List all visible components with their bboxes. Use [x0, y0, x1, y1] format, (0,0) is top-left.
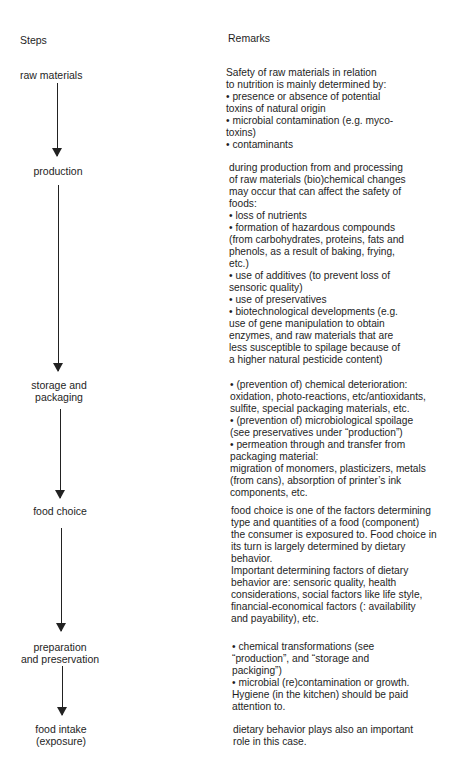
- remark-food-choice: food choice is one of the factors determ…: [231, 505, 468, 625]
- steps-header: Steps: [20, 34, 47, 46]
- step-raw-materials: raw materials: [0, 69, 140, 81]
- arrow-down-icon: [61, 528, 62, 631]
- remark-storage-and-packaging: • (prevention of) chemical deterioration…: [230, 379, 468, 499]
- step-storage-and-packaging: storage and packaging: [0, 379, 119, 403]
- remark-preparation-and-preservation: • chemical transformations (see “product…: [232, 641, 468, 713]
- remark-production: during production from and processing of…: [229, 162, 467, 366]
- step-food-intake: food intake (exposure): [1, 723, 121, 747]
- step-production: production: [0, 165, 118, 177]
- arrow-down-icon: [62, 666, 63, 715]
- remark-raw-materials: Safety of raw materials in relation to n…: [226, 67, 464, 151]
- arrow-down-icon: [57, 83, 58, 156]
- arrow-down-icon: [60, 409, 61, 498]
- arrow-down-icon: [58, 185, 59, 371]
- remark-food-intake: dietary behavior plays also an important…: [233, 724, 468, 748]
- step-food-choice: food choice: [0, 505, 120, 517]
- step-preparation-and-preservation: preparation and preservation: [0, 641, 120, 665]
- remarks-header: Remarks: [228, 32, 270, 44]
